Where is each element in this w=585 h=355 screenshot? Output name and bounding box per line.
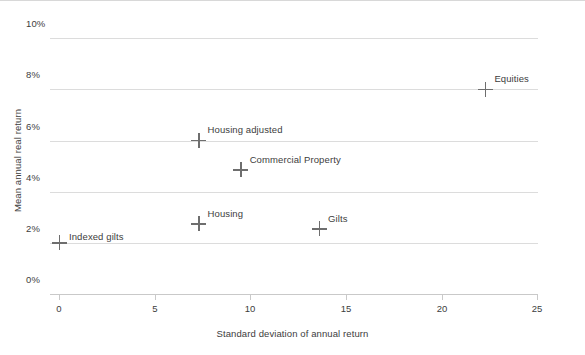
data-point-label: Equities — [494, 73, 529, 84]
y-tick-label-8: 8% — [26, 69, 64, 80]
data-point-marker[interactable] — [191, 133, 206, 148]
x-axis-line — [50, 294, 538, 295]
gridline-6 — [50, 141, 538, 142]
x-tick-label-20: 20 — [422, 303, 462, 314]
y-tick-label-2: 2% — [26, 223, 64, 234]
x-tick-0 — [59, 294, 60, 300]
plot-area: 10% 8% 6% 4% 2% 0% 0 5 10 15 20 25 Index… — [0, 0, 585, 355]
y-axis-title: Mean annual real return — [12, 86, 23, 236]
gridline-8 — [50, 89, 538, 90]
data-point-marker[interactable] — [233, 162, 248, 177]
x-axis-title: Standard deviation of annual return — [0, 328, 585, 339]
y-tick-label-0: 0% — [26, 274, 64, 285]
data-point-label: Commercial Property — [250, 154, 341, 165]
x-tick-label-0: 0 — [39, 303, 79, 314]
x-tick-15 — [346, 294, 347, 300]
x-tick-20 — [442, 294, 443, 300]
gridline-2 — [50, 243, 538, 244]
data-point-label: Gilts — [328, 213, 348, 224]
x-tick-label-25: 25 — [517, 303, 557, 314]
y-tick-label-10: 10% — [26, 18, 64, 29]
gridline-4 — [50, 192, 538, 193]
data-point-label: Indexed gilts — [69, 231, 124, 242]
x-tick-label-5: 5 — [135, 303, 175, 314]
x-tick-10 — [250, 294, 251, 300]
data-point-label: Housing adjusted — [208, 124, 283, 135]
y-tick-label-6: 6% — [26, 121, 64, 132]
data-point-marker[interactable] — [191, 216, 206, 231]
data-point-label: Housing — [208, 208, 244, 219]
x-tick-label-15: 15 — [326, 303, 366, 314]
data-point-marker[interactable] — [312, 221, 327, 236]
y-tick-label-4: 4% — [26, 172, 64, 183]
x-tick-label-10: 10 — [230, 303, 270, 314]
data-point-marker[interactable] — [478, 82, 493, 97]
x-tick-25 — [537, 294, 538, 300]
data-point-marker[interactable] — [52, 235, 67, 250]
gridline-10 — [50, 38, 538, 39]
x-tick-5 — [155, 294, 156, 300]
chart-container: 10% 8% 6% 4% 2% 0% 0 5 10 15 20 25 Index… — [0, 0, 585, 355]
